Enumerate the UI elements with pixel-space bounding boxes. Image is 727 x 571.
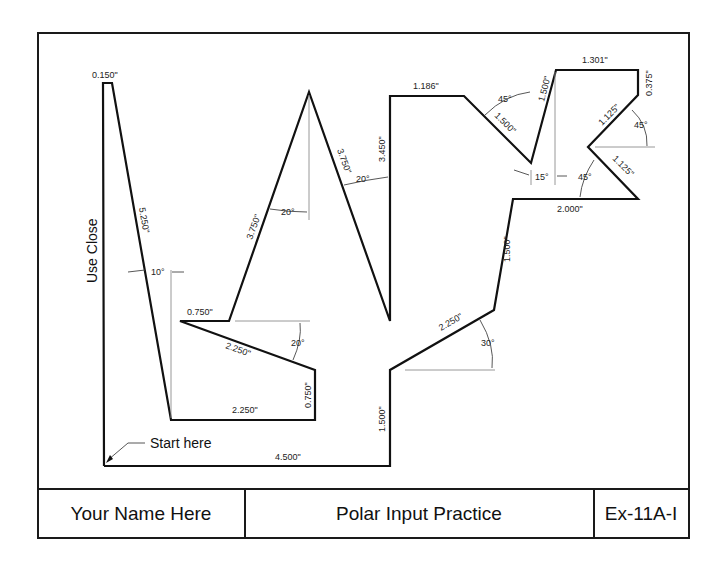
drawing-title: Polar Input Practice: [336, 503, 502, 524]
dim-4500: 4.500": [275, 452, 301, 462]
angle-45-top: 45°: [498, 94, 512, 104]
dim-0375: 0.375": [644, 70, 654, 96]
dim-2250-slope: 2.250": [224, 340, 252, 358]
drawing-border: [38, 33, 689, 538]
dim-0750-vert: 0.750": [303, 382, 313, 408]
dim-2000: 2.000": [557, 204, 583, 214]
dim-1500-mid: 1.500": [502, 236, 512, 262]
dim-1500-bottom: 1.500": [377, 406, 387, 432]
angle-45-lower: 45°: [578, 172, 592, 182]
dim-1500-diag: 1.500": [493, 110, 518, 135]
angle-30: 30°: [481, 338, 495, 348]
dim-2250-base: 2.250": [232, 405, 258, 415]
dim-5250: 5.250": [137, 207, 151, 234]
dim-arc-15: [514, 170, 529, 175]
start-leader: [108, 443, 145, 460]
polar-shape-outline: [103, 70, 638, 466]
angle-20-lower: 20°: [291, 338, 305, 348]
exercise-number: Ex-11A-I: [605, 503, 678, 524]
angle-45-right: 45°: [634, 120, 648, 130]
dim-0750-top: 0.750": [187, 307, 213, 317]
dim-3750-left: 3.750": [244, 213, 262, 241]
dim-arc-10: [128, 270, 145, 272]
student-name-field: Your Name Here: [71, 503, 212, 524]
dim-3450: 3.450": [377, 136, 387, 162]
polar-input-drawing: Your Name Here Polar Input Practice Ex-1…: [0, 0, 727, 571]
angle-10: 10°: [151, 267, 165, 277]
dim-1301: 1.301": [582, 55, 608, 65]
dim-0150: 0.150": [92, 70, 118, 80]
dim-1186: 1.186": [413, 81, 439, 91]
angle-20-peak: 20°: [281, 207, 295, 217]
angle-15: 15°: [535, 172, 549, 182]
use-close-label: Use Close: [84, 218, 100, 283]
start-here-label: Start here: [150, 435, 212, 451]
angle-20-right: 20°: [356, 174, 370, 184]
